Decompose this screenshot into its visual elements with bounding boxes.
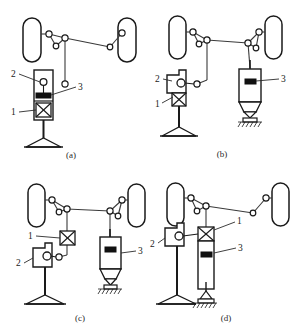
linkage-joints	[188, 195, 269, 216]
column-support	[156, 246, 196, 304]
callout-c-3: 3	[138, 246, 143, 256]
panel-d: 1 2 3 (d)	[150, 183, 289, 323]
callout-a-3: 3	[78, 82, 83, 92]
callout-c-2: 2	[16, 258, 21, 268]
wheel-right	[118, 18, 136, 62]
wheel-left	[167, 183, 184, 226]
steering-wheel-hub	[167, 70, 194, 93]
callout-c-1: 1	[28, 231, 33, 241]
callout-b-3: 3	[281, 74, 286, 84]
callout-a-2: 2	[11, 69, 16, 79]
wheel-left	[28, 184, 45, 227]
torque-sensor	[36, 103, 51, 117]
steering-wheel-hub	[33, 243, 56, 267]
assist-actuator	[193, 241, 217, 308]
wheel-left	[169, 16, 186, 59]
panel-a: 2 3 1 (a)	[11, 18, 136, 160]
torque-sensor	[198, 227, 214, 241]
linkage-joints	[46, 30, 125, 87]
wheel-right	[265, 16, 282, 59]
callout-b-1: 1	[155, 99, 160, 109]
panel-b: 2 1 3 (b)	[155, 16, 286, 159]
assist-actuator-bar	[36, 93, 51, 98]
torque-sensor	[60, 231, 75, 245]
caption-d: (d)	[221, 313, 232, 323]
steering-system-figure: 2 3 1 (a)	[0, 0, 304, 334]
callout-b-2: 2	[155, 74, 160, 84]
callout-d-3: 3	[238, 243, 243, 253]
caption-b: (b)	[217, 149, 228, 159]
wheel-right	[272, 183, 289, 226]
steering-wheel-hub	[165, 223, 198, 246]
assist-actuator	[238, 60, 262, 127]
steering-wheel-hub	[40, 79, 47, 86]
panel-c: 1 2 3 (c)	[16, 184, 145, 323]
callout-d-1: 1	[237, 216, 242, 226]
column-support	[160, 106, 198, 136]
assist-actuator	[98, 229, 122, 294]
callout-a-1: 1	[11, 107, 16, 117]
column-support	[24, 267, 66, 304]
caption-c: (c)	[75, 313, 85, 323]
torque-sensor	[172, 93, 186, 106]
caption-a: (a)	[66, 150, 76, 160]
column-support	[24, 120, 63, 147]
callout-d-2: 2	[150, 239, 155, 249]
wheel-right	[128, 184, 145, 227]
wheel-left	[23, 18, 41, 62]
